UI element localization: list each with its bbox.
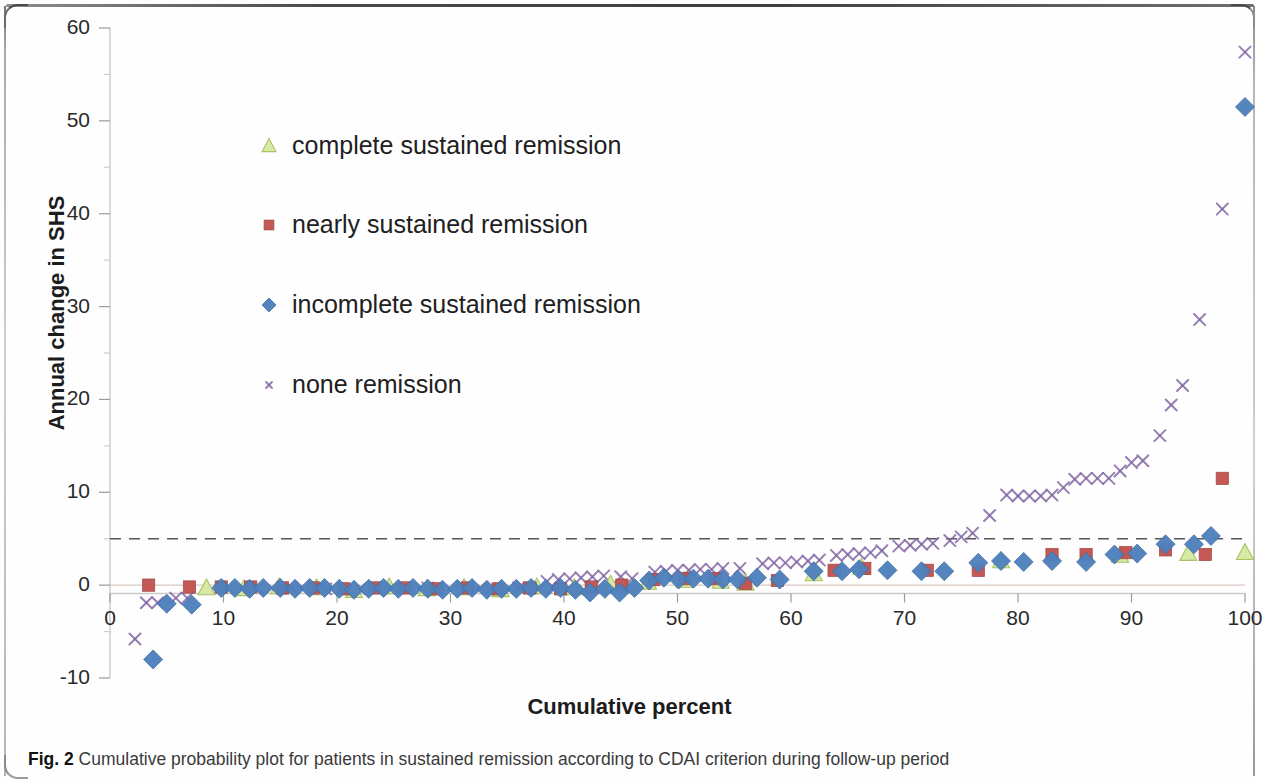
data-point-cross	[1092, 473, 1103, 484]
data-point-cross	[768, 557, 779, 568]
scatter-plot: Annual change in SHS Cumulative percent …	[0, 0, 1259, 700]
data-point-diamond	[566, 580, 585, 599]
y-tick-label: 10	[32, 479, 90, 503]
figure-caption: Fig. 2 Cumulative probability plot for p…	[28, 748, 1238, 771]
data-point-cross	[1001, 490, 1012, 501]
data-point-cross	[1058, 482, 1069, 493]
data-point-cross	[984, 510, 995, 521]
legend-label: complete sustained remission	[292, 133, 621, 158]
legend-marker-triangle-icon	[258, 135, 280, 157]
x-tick-label: 90	[1102, 606, 1162, 630]
legend-item-diamond: incomplete sustained remission	[258, 292, 641, 317]
data-point-diamond	[144, 650, 163, 669]
x-tick-label: 60	[761, 606, 821, 630]
legend-marker-cross-icon	[258, 374, 280, 396]
data-point-cross	[757, 558, 768, 569]
data-point-diamond	[1201, 526, 1220, 545]
legend-item-square: nearly sustained remission	[258, 212, 588, 237]
data-point-cross	[944, 535, 955, 546]
figure-caption-prefix: Fig. 2	[28, 749, 74, 769]
data-point-diamond	[969, 553, 988, 572]
x-tick-label: 30	[421, 606, 481, 630]
y-tick-label: 40	[32, 201, 90, 225]
data-point-cross	[1166, 399, 1177, 410]
legend-label: nearly sustained remission	[292, 212, 588, 237]
x-tick-label: 40	[534, 606, 594, 630]
data-point-cross	[266, 382, 272, 388]
data-point-cross	[1035, 490, 1046, 501]
data-point-cross	[854, 548, 865, 559]
plot-canvas	[0, 0, 1259, 700]
data-point-cross	[1012, 490, 1023, 501]
x-axis-title: Cumulative percent	[0, 694, 1259, 720]
data-point-diamond	[1077, 552, 1096, 571]
data-point-cross	[1217, 204, 1228, 215]
page-corner-bottom-left	[4, 755, 28, 779]
data-point-diamond	[1156, 535, 1175, 554]
data-point-diamond	[935, 562, 954, 581]
data-point-diamond	[1014, 552, 1033, 571]
data-point-cross	[1069, 474, 1080, 485]
x-tick-label: 20	[307, 606, 367, 630]
x-tick-label: 70	[875, 606, 935, 630]
data-point-cross	[842, 549, 853, 560]
data-point-cross	[1154, 430, 1165, 441]
legend-marker-diamond-icon	[258, 294, 280, 316]
data-point-square	[1199, 548, 1211, 560]
y-tick-label: -10	[32, 665, 90, 689]
y-tick-label: 30	[32, 294, 90, 318]
data-point-square	[142, 579, 154, 591]
data-point-cross	[1137, 455, 1148, 466]
data-point-cross	[1177, 380, 1188, 391]
figure-caption-text: Cumulative probability plot for patients…	[79, 749, 950, 769]
data-point-cross	[1103, 473, 1114, 484]
x-tick-label: 50	[648, 606, 708, 630]
data-point-diamond	[878, 561, 897, 580]
data-point-diamond	[1043, 552, 1062, 571]
data-point-cross	[791, 556, 802, 567]
legend-item-cross: none remission	[258, 372, 462, 397]
data-point-cross	[129, 633, 140, 644]
y-tick-label: 50	[32, 108, 90, 132]
legend-label: incomplete sustained remission	[292, 292, 641, 317]
data-point-cross	[831, 550, 842, 561]
data-point-cross	[1047, 490, 1058, 501]
data-point-cross	[905, 540, 916, 551]
y-tick-label: 20	[32, 386, 90, 410]
data-point-diamond	[1236, 97, 1255, 116]
legend-item-triangle: complete sustained remission	[258, 133, 621, 158]
data-point-square	[264, 220, 274, 230]
data-point-cross	[1239, 47, 1250, 58]
data-point-cross	[1194, 314, 1205, 325]
x-tick-label: 100	[1215, 606, 1267, 630]
data-point-square	[1216, 472, 1228, 484]
data-point-cross	[1115, 465, 1126, 476]
data-point-cross	[1081, 473, 1092, 484]
data-point-triangle	[262, 138, 276, 151]
data-point-triangle	[1237, 544, 1254, 560]
data-point-square	[183, 581, 195, 593]
y-tick-label: 60	[32, 15, 90, 39]
data-point-cross	[916, 539, 927, 550]
data-point-cross	[141, 597, 152, 608]
data-point-cross	[876, 545, 887, 556]
x-tick-label: 0	[80, 606, 140, 630]
data-point-cross	[893, 541, 904, 552]
data-point-cross	[1024, 490, 1035, 501]
legend-marker-square-icon	[258, 214, 280, 236]
data-point-cross	[865, 547, 876, 558]
data-point-cross	[967, 528, 978, 539]
x-tick-label: 10	[194, 606, 254, 630]
y-tick-label: 0	[32, 572, 90, 596]
data-point-cross	[1126, 457, 1137, 468]
data-point-diamond	[262, 298, 276, 312]
legend-label: none remission	[292, 372, 462, 397]
x-tick-label: 80	[988, 606, 1048, 630]
data-point-cross	[956, 531, 967, 542]
data-point-cross	[780, 557, 791, 568]
